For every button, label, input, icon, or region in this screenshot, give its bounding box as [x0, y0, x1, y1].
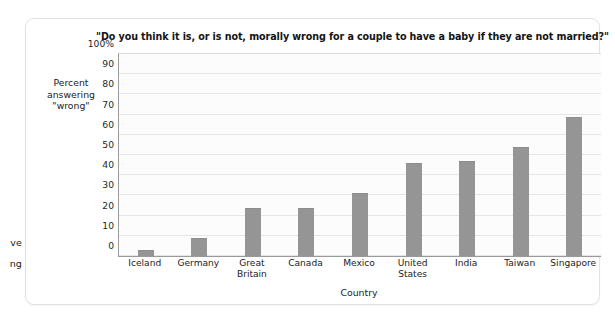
y-axis-tick-label: 100% [88, 38, 114, 49]
x-axis-tick-label: Mexico [332, 258, 386, 279]
clipped-edge-text: ve ng [0, 232, 22, 274]
bar-series [119, 54, 601, 256]
y-axis-tick-label: 10 [102, 219, 114, 230]
x-axis-tick-labels: IcelandGermanyGreat BritainCanadaMexicoU… [118, 258, 600, 279]
x-axis-tick-label: United States [386, 258, 440, 279]
bar-slot [333, 54, 387, 256]
plot-area: 0102030405060708090100% [118, 53, 601, 257]
bar-slot [494, 54, 548, 256]
x-axis-tick-label: Germany [172, 258, 226, 279]
x-axis-tick-label: India [439, 258, 493, 279]
figure-card: "Do you think it is, or is not, morally … [25, 18, 600, 305]
bar[interactable] [138, 250, 154, 256]
bar-slot [548, 54, 602, 256]
bar[interactable] [406, 163, 422, 256]
x-axis-tick-label: Great Britain [225, 258, 279, 279]
chart-title: "Do you think it is, or is not, morally … [96, 31, 596, 42]
x-axis-tick-label: Singapore [547, 258, 601, 279]
bar-slot [440, 54, 494, 256]
clipped-edge-text-line-1: ve [0, 232, 22, 253]
y-axis-tick-label: 80 [102, 78, 114, 89]
y-axis-tick-label: 50 [102, 139, 114, 150]
y-axis-tick-label: 60 [102, 118, 114, 129]
bar[interactable] [298, 208, 314, 256]
y-axis-title-line-2: answering [40, 89, 102, 101]
y-axis-tick-label: 70 [102, 98, 114, 109]
y-axis-title-line-3: "wrong" [40, 100, 102, 112]
y-axis-tick-label: 0 [108, 240, 114, 251]
bar[interactable] [352, 193, 368, 256]
y-axis-title-line-1: Percent [40, 77, 102, 89]
bar-slot [173, 54, 227, 256]
bar[interactable] [513, 147, 529, 256]
bar[interactable] [566, 117, 582, 256]
bar[interactable] [191, 238, 207, 256]
x-axis-tick-label: Taiwan [493, 258, 547, 279]
bar[interactable] [245, 208, 261, 256]
bar-slot [387, 54, 441, 256]
bar-slot [280, 54, 334, 256]
clipped-edge-text-line-2: ng [0, 253, 22, 274]
bar[interactable] [459, 161, 475, 256]
x-axis-title: Country [118, 287, 600, 298]
y-axis-tick-label: 40 [102, 159, 114, 170]
x-axis-tick-label: Iceland [118, 258, 172, 279]
bar-slot [119, 54, 173, 256]
y-axis-tick-label: 20 [102, 199, 114, 210]
y-axis-tick-label: 30 [102, 179, 114, 190]
bar-slot [226, 54, 280, 256]
y-axis-title: Percent answering "wrong" [40, 77, 102, 112]
x-axis-tick-label: Canada [279, 258, 333, 279]
y-axis-tick-label: 90 [102, 58, 114, 69]
